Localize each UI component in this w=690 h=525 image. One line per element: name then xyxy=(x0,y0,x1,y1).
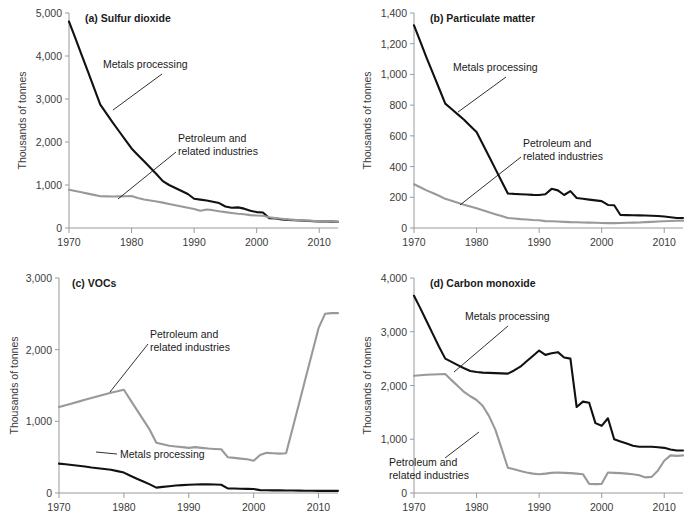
series-annotation-label: related industries xyxy=(178,145,258,157)
x-tick-label: 2010 xyxy=(653,236,677,248)
series-line-petroleum-related-industries xyxy=(69,190,338,222)
y-tick-label: 1,000 xyxy=(381,68,407,80)
y-axis-title: Thousands of tonnes xyxy=(361,336,373,434)
series-annotation-label: related industries xyxy=(523,150,603,162)
series-annotation-label: Petroleum and xyxy=(389,456,457,468)
series-annotation-label: Metals processing xyxy=(465,310,550,322)
x-tick-label: 2000 xyxy=(245,236,269,248)
y-axis-ticks: 02004006008001,0001,2001,400 xyxy=(381,7,414,234)
series-annotation-label: related industries xyxy=(150,341,230,353)
x-tick-label: 2010 xyxy=(653,501,677,513)
series-annotation-label: Petroleum and xyxy=(523,137,591,149)
y-tick-label: 200 xyxy=(389,191,407,203)
y-tick-label: 0 xyxy=(401,487,407,499)
y-tick-label: 1,000 xyxy=(26,415,52,427)
four-panel-emissions-figure: 01,0002,0003,0004,0005,00019701980199020… xyxy=(0,0,690,525)
chart-panel-b: 02004006008001,0001,2001,400197019801990… xyxy=(345,0,690,262)
y-tick-label: 2,000 xyxy=(381,380,407,392)
series-annotation-label: Metals processing xyxy=(453,61,538,73)
y-axis-ticks: 01,0002,0003,000 xyxy=(26,272,59,499)
annotation-leader-line xyxy=(96,452,117,454)
x-tick-label: 2010 xyxy=(308,236,332,248)
series-annotation-label: Metals processing xyxy=(120,448,205,460)
series-annotation-label: Petroleum and xyxy=(178,132,246,144)
x-tick-label: 1990 xyxy=(527,501,551,513)
axes xyxy=(414,13,683,228)
y-tick-label: 1,400 xyxy=(381,7,407,19)
y-tick-label: 2,000 xyxy=(26,344,52,356)
y-axis-ticks: 01,0002,0003,0004,0005,000 xyxy=(36,7,69,234)
y-tick-label: 2,000 xyxy=(36,136,62,148)
y-tick-label: 5,000 xyxy=(36,7,62,19)
y-tick-label: 0 xyxy=(401,222,407,234)
panel-title: (c) VOCs xyxy=(72,277,117,289)
x-tick-label: 1970 xyxy=(47,501,71,513)
y-tick-label: 400 xyxy=(389,161,407,173)
y-tick-label: 0 xyxy=(46,487,52,499)
annotation-leader-line xyxy=(110,344,148,392)
x-axis-ticks: 19701980199020002010 xyxy=(57,228,331,248)
x-tick-label: 1990 xyxy=(527,236,551,248)
series-annotation-label: Petroleum and xyxy=(150,328,218,340)
y-tick-label: 1,000 xyxy=(36,179,62,191)
series-annotation-label: Metals processing xyxy=(103,58,188,70)
x-tick-label: 1990 xyxy=(182,236,206,248)
x-tick-label: 1980 xyxy=(112,501,136,513)
chart-panel-d: 01,0002,0003,0004,0001970198019902000201… xyxy=(345,262,690,524)
x-tick-label: 2010 xyxy=(307,501,331,513)
x-tick-label: 1980 xyxy=(465,501,489,513)
y-tick-label: 1,000 xyxy=(381,433,407,445)
y-tick-label: 1,200 xyxy=(381,38,407,50)
x-tick-label: 1990 xyxy=(177,501,201,513)
x-axis-ticks: 19701980199020002010 xyxy=(47,493,330,513)
y-tick-label: 4,000 xyxy=(381,272,407,284)
series-annotation-label: related industries xyxy=(389,469,469,481)
annotation-leader-line xyxy=(118,152,176,199)
y-tick-label: 4,000 xyxy=(36,50,62,62)
series-line-metals-processing xyxy=(414,25,683,218)
y-axis-title: Thousands of tonnes xyxy=(16,71,28,169)
y-tick-label: 0 xyxy=(56,222,62,234)
y-axis-title: Thousands of tonnes xyxy=(361,71,373,169)
annotation-leader-line xyxy=(458,77,506,112)
series-line-metals-processing xyxy=(69,22,338,222)
x-tick-label: 2000 xyxy=(590,501,614,513)
annotation-leader-line xyxy=(454,326,508,372)
x-tick-label: 1980 xyxy=(465,236,489,248)
panel-title: (a) Sulfur dioxide xyxy=(85,12,171,24)
series-line-petroleum-related-industries xyxy=(414,184,683,223)
annotation-leader-line xyxy=(445,432,479,458)
chart-panel-a: 01,0002,0003,0004,0005,00019701980199020… xyxy=(0,0,345,262)
panel-title: (b) Particulate matter xyxy=(430,12,535,24)
x-tick-label: 1980 xyxy=(120,236,144,248)
y-tick-label: 3,000 xyxy=(36,93,62,105)
axes xyxy=(59,278,338,493)
x-tick-label: 1970 xyxy=(402,236,426,248)
y-tick-label: 3,000 xyxy=(381,326,407,338)
x-tick-label: 2000 xyxy=(590,236,614,248)
annotation-leader-line xyxy=(460,157,521,205)
panel-title: (d) Carbon monoxide xyxy=(430,277,536,289)
series-line-metals-processing xyxy=(59,464,338,491)
x-axis-ticks: 19701980199020002010 xyxy=(402,493,676,513)
x-tick-label: 1970 xyxy=(402,501,426,513)
x-tick-label: 1970 xyxy=(57,236,81,248)
annotation-leader-line xyxy=(113,74,162,110)
y-tick-label: 600 xyxy=(389,130,407,142)
y-tick-label: 800 xyxy=(389,99,407,111)
x-tick-label: 2000 xyxy=(242,501,266,513)
y-tick-label: 3,000 xyxy=(26,272,52,284)
y-axis-title: Thousands of tonnes xyxy=(8,336,20,434)
x-axis-ticks: 19701980199020002010 xyxy=(402,228,676,248)
chart-panel-c: 01,0002,0003,00019701980199020002010Thou… xyxy=(0,262,345,524)
